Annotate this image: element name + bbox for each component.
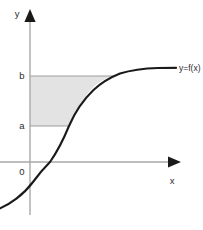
plot-canvas: y x 0 b a y=f(x) [0, 0, 203, 230]
tick-label-b: b [19, 70, 24, 81]
x-axis-arrowhead-icon [168, 157, 181, 168]
y-axis-arrowhead-icon [24, 9, 35, 22]
x-axis-label: x [170, 175, 175, 186]
function-plot-figure: y x 0 b a y=f(x) [0, 0, 203, 230]
tick-label-a: a [19, 120, 25, 131]
curve-label: y=f(x) [179, 63, 201, 73]
y-axis-label: y [15, 8, 20, 19]
origin-label: 0 [19, 166, 24, 177]
